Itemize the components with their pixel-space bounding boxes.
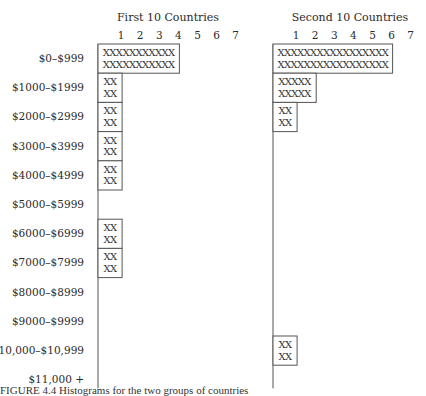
tally-marks: XX (279, 105, 294, 116)
panel-title: First 10 Countries (117, 11, 219, 24)
figure-caption: FIGURE 4.4 Histograms for the two groups… (0, 384, 248, 396)
tally-marks: XX (104, 76, 119, 87)
row-label: $7000–$7999 (12, 256, 84, 268)
tally-marks: XX (279, 117, 294, 128)
tally-marks: XXXXXXXXXXX (103, 59, 176, 70)
axis-tick-label: 3 (331, 29, 338, 41)
row-label: $6000–$6999 (12, 227, 84, 239)
axis-tick-label: 5 (194, 29, 201, 41)
tally-marks: XX (104, 251, 119, 262)
tally-marks: XX (104, 146, 119, 157)
row-label: $2000–$2999 (12, 110, 84, 122)
row-label: $9000–$9999 (12, 315, 84, 327)
axis-tick-label: 2 (312, 29, 319, 41)
row-label: $4000–$4999 (12, 169, 84, 181)
row-label: $5000–$5999 (12, 198, 84, 210)
tally-marks: XX (104, 88, 119, 99)
tally-marks: XX (104, 117, 119, 128)
tally-marks: XXXXXXXXXXXXXXXXX (277, 47, 389, 58)
axis-tick-label: 3 (156, 29, 163, 41)
row-label: $10,000–$10,999 (0, 344, 84, 356)
tally-marks: XX (104, 222, 119, 233)
tally-marks: XXXXX (278, 88, 312, 99)
axis-tick-label: 2 (137, 29, 144, 41)
tally-marks: XX (104, 263, 119, 274)
tally-marks: XX (104, 135, 119, 146)
tally-marks: XX (104, 175, 119, 186)
axis-tick-label: 4 (175, 29, 182, 41)
tally-marks: XXXXXXXXXXX (103, 47, 176, 58)
axis-tick-label: 1 (118, 29, 125, 41)
row-label: $8000–$8999 (12, 286, 84, 298)
axis-tick-label: 6 (213, 29, 220, 41)
tally-marks: XXXXX (278, 76, 312, 87)
tally-marks: XX (104, 105, 119, 116)
row-label: $1000–$1999 (12, 81, 84, 93)
row-label: $0–$999 (39, 52, 84, 64)
axis-tick-label: 4 (350, 29, 357, 41)
tally-marks: XX (279, 351, 294, 362)
tally-marks: XX (104, 234, 119, 245)
tally-marks: XX (104, 164, 119, 175)
panel-title: Second 10 Countries (292, 11, 409, 24)
tally-marks: XXXXXXXXXXXXXXXXX (277, 59, 389, 70)
axis-tick-label: 7 (232, 29, 239, 41)
axis-tick-label: 7 (407, 29, 414, 41)
row-label: $3000–$3999 (12, 140, 84, 152)
axis-tick-label: 6 (388, 29, 395, 41)
axis-tick-label: 1 (293, 29, 300, 41)
axis-tick-label: 5 (369, 29, 376, 41)
tally-marks: XX (279, 339, 294, 350)
